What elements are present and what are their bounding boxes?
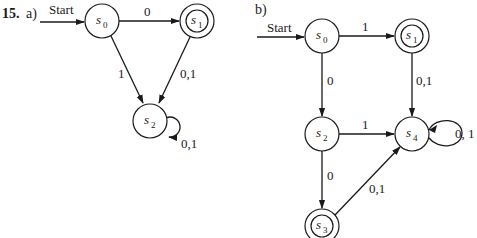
start-label-b: Start [267,20,292,35]
edge-label-a-s1-s2: 0,1 [180,66,196,81]
state-b-s1-accepting: s 1 [395,19,429,53]
diagram-b: b) Start 1 0 0,1 1 0 0,1 0, 1 s 0 [255,2,475,238]
svg-text:2: 2 [323,133,328,143]
state-a-s0: s 0 [85,4,119,38]
svg-text:s: s [316,217,321,232]
edge-label-a-s0-s2: 1 [118,66,125,81]
edge-label-a-s0-s1: 0 [144,4,151,19]
svg-text:s: s [316,125,321,140]
problem-number: 15. [2,6,20,21]
state-a-s2: s 2 [133,104,167,138]
part-a-label: a) [26,6,37,22]
svg-text:1: 1 [198,20,203,30]
svg-text:s: s [144,112,149,127]
svg-text:2: 2 [151,120,156,130]
edge-label-b-s2-s3: 0 [327,168,334,183]
edge-label-b-s1-s4: 0,1 [416,73,432,88]
state-b-s0: s 0 [305,19,339,53]
svg-text:1: 1 [413,35,418,45]
state-b-s2: s 2 [305,117,339,151]
edge-label-a-s2-loop: 0,1 [181,136,197,151]
state-b-s3-accepting: s 3 [305,209,339,238]
svg-text:s: s [316,27,321,42]
svg-text:s: s [96,12,101,27]
part-b-label: b) [255,2,267,18]
edge-a-s0-s2 [111,36,143,103]
svg-text:0: 0 [103,20,108,30]
edge-label-b-s2-s4: 1 [362,117,369,132]
svg-text:0: 0 [323,35,328,45]
start-label-a: Start [49,2,74,17]
edge-label-b-s3-s4: 0,1 [369,181,385,196]
diagram-a: 15. a) Start 0 1 0,1 0,1 s 0 s 1 s [2,2,214,151]
svg-text:3: 3 [323,225,328,235]
svg-text:s: s [191,12,196,27]
state-a-s1-accepting: s 1 [180,4,214,38]
edge-b-s3-s4 [335,147,400,215]
state-b-s4: s 4 [395,117,429,151]
automata-figure: 15. a) Start 0 1 0,1 0,1 s 0 s 1 s [0,0,477,238]
svg-text:4: 4 [413,133,418,143]
edge-label-b-s4-loop: 0, 1 [455,126,475,141]
edge-label-b-s0-s1: 1 [362,19,369,34]
svg-text:s: s [406,125,411,140]
edge-label-b-s0-s2: 0 [327,73,334,88]
svg-text:s: s [406,27,411,42]
